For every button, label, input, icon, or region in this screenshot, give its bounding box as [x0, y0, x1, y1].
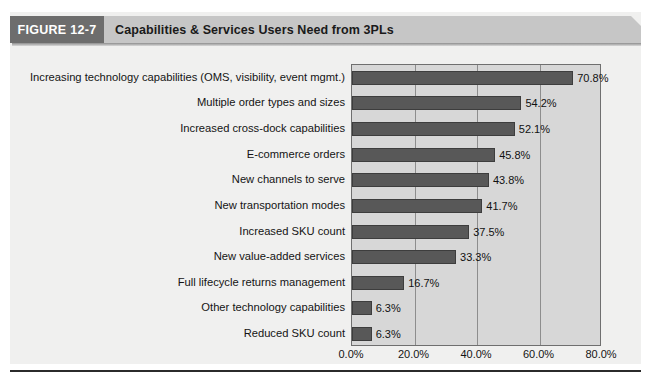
bar-value-label: 6.3% — [372, 328, 401, 340]
bar-row: 6.3% — [352, 321, 600, 347]
bar-value-label: 33.3% — [456, 251, 491, 263]
bar — [352, 96, 521, 110]
bottom-rule — [10, 370, 641, 372]
category-label: E-commerce orders — [247, 148, 345, 160]
x-tick-label: 0.0% — [338, 348, 363, 360]
bar-row: 43.8% — [352, 168, 600, 194]
bar-value-label: 16.7% — [404, 277, 439, 289]
category-label-row: Full lifecycle returns management — [10, 269, 349, 295]
x-tick-label: 60.0% — [523, 348, 554, 360]
bar-row: 16.7% — [352, 270, 600, 296]
category-label: New channels to serve — [232, 173, 345, 185]
x-tick-label: 40.0% — [460, 348, 491, 360]
category-label-row: E-commerce orders — [10, 141, 349, 167]
bar-rows: 70.8%54.2%52.1%45.8%43.8%41.7%37.5%33.3%… — [352, 65, 600, 345]
category-label-row: New value-added services — [10, 243, 349, 269]
bar-value-label: 45.8% — [495, 149, 530, 161]
bar-row: 41.7% — [352, 193, 600, 219]
bar — [352, 173, 489, 187]
bar — [352, 327, 372, 341]
figure-root: FIGURE 12-7 Capabilities & Services User… — [0, 0, 651, 388]
category-label-row: Increased SKU count — [10, 218, 349, 244]
category-label: New transportation modes — [214, 199, 345, 211]
x-tick-label: 20.0% — [398, 348, 429, 360]
bar — [352, 301, 372, 315]
bar-row: 37.5% — [352, 219, 600, 245]
bar — [352, 250, 456, 264]
bar-row: 52.1% — [352, 116, 600, 142]
category-label-row: Reduced SKU count — [10, 320, 349, 346]
bar-value-label: 70.8% — [573, 72, 608, 84]
bar-row: 6.3% — [352, 296, 600, 322]
bar — [352, 276, 404, 290]
figure-number-tag: FIGURE 12-7 — [10, 16, 104, 43]
x-axis-tick-labels: 0.0%20.0%40.0%60.0%80.0% — [351, 348, 601, 366]
category-label: Increased SKU count — [239, 225, 345, 237]
category-label: Increased cross-dock capabilities — [180, 122, 345, 134]
category-label-row: Multiple order types and sizes — [10, 90, 349, 116]
bar — [352, 199, 482, 213]
category-label: Increasing technology capabilities (OMS,… — [30, 71, 345, 83]
category-label-row: New transportation modes — [10, 192, 349, 218]
category-label-row: Increasing technology capabilities (OMS,… — [10, 64, 349, 90]
bar — [352, 148, 495, 162]
bar-value-label: 54.2% — [521, 97, 556, 109]
bar — [352, 71, 573, 85]
plot-area: 70.8%54.2%52.1%45.8%43.8%41.7%37.5%33.3%… — [351, 64, 601, 346]
category-label: Other technology capabilities — [201, 301, 345, 313]
chart-container: Increasing technology capabilities (OMS,… — [10, 52, 641, 364]
bar — [352, 225, 469, 239]
bar-row: 70.8% — [352, 65, 600, 91]
category-axis-labels: Increasing technology capabilities (OMS,… — [10, 64, 349, 346]
bar-value-label: 37.5% — [469, 226, 504, 238]
x-tick-label: 80.0% — [585, 348, 616, 360]
bar — [352, 122, 515, 136]
bar-value-label: 43.8% — [489, 174, 524, 186]
bar-value-label: 6.3% — [372, 302, 401, 314]
category-label-row: Other technology capabilities — [10, 295, 349, 321]
bar-row: 54.2% — [352, 91, 600, 117]
bar-row: 45.8% — [352, 142, 600, 168]
bar-value-label: 52.1% — [515, 123, 550, 135]
category-label-row: New channels to serve — [10, 167, 349, 193]
figure-banner-shadow — [12, 43, 641, 46]
category-label: Reduced SKU count — [244, 327, 345, 339]
category-label: Multiple order types and sizes — [197, 96, 345, 108]
bar-row: 33.3% — [352, 244, 600, 270]
category-label: New value-added services — [214, 250, 345, 262]
figure-title: Capabilities & Services Users Need from … — [115, 16, 394, 43]
category-label-row: Increased cross-dock capabilities — [10, 115, 349, 141]
category-label: Full lifecycle returns management — [178, 276, 345, 288]
bar-value-label: 41.7% — [482, 200, 517, 212]
